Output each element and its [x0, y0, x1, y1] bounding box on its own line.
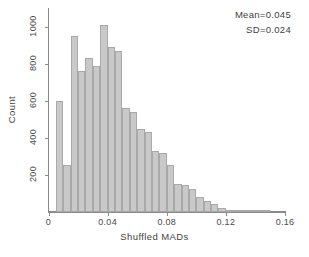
histogram-bar	[218, 208, 225, 212]
histogram-bar	[152, 151, 159, 212]
mean-annotation: Mean=0.045	[235, 7, 291, 22]
histogram-bar	[263, 210, 270, 212]
y-axis-tick-label: 200	[28, 163, 38, 185]
histogram-figure: 00.040.080.120.16 2004006008001000 Shuff…	[0, 0, 309, 257]
histogram-bar	[211, 204, 218, 212]
y-axis-tick-label: 1000	[28, 15, 38, 37]
x-axis-tick-label: 0	[46, 217, 51, 227]
x-axis-tick	[108, 212, 109, 216]
histogram-bar	[189, 189, 196, 212]
x-axis-tick-label: 0.12	[217, 217, 236, 227]
x-axis-tick	[167, 212, 168, 216]
histogram-bar	[241, 210, 248, 212]
histogram-bar	[196, 197, 203, 212]
y-axis-tick	[45, 175, 49, 176]
y-axis-tick	[45, 138, 49, 139]
y-axis-tick-label: 600	[28, 89, 38, 111]
stats-annotation-block: Mean=0.045 SD=0.024	[235, 7, 291, 37]
histogram-bar	[233, 210, 240, 212]
x-axis-tick-label: 0.16	[276, 217, 295, 227]
histogram-bar	[108, 47, 115, 212]
x-axis-tick-label: 0.04	[98, 217, 117, 227]
plot-area	[49, 8, 286, 212]
histogram-bar	[56, 101, 63, 212]
histogram-bar	[71, 36, 78, 212]
histogram-bar	[174, 184, 181, 212]
y-axis-tick	[45, 64, 49, 65]
histogram-bar	[93, 66, 100, 213]
histogram-bar	[100, 25, 107, 212]
histogram-bar	[182, 185, 189, 212]
x-axis-tick	[285, 212, 286, 216]
sd-annotation: SD=0.024	[235, 22, 291, 37]
histogram-bar	[115, 51, 122, 212]
histogram-bar	[78, 71, 85, 212]
histogram-bar	[145, 132, 152, 212]
y-axis-tick	[45, 101, 49, 102]
x-axis-tick-label: 0.08	[157, 217, 176, 227]
histogram-bar	[255, 210, 262, 212]
histogram-bar	[204, 201, 211, 212]
y-axis-tick-label: 400	[28, 126, 38, 148]
histogram-bar	[167, 165, 174, 212]
y-axis-tick-label: 800	[28, 52, 38, 74]
histogram-bar	[137, 129, 144, 212]
x-axis-tick	[226, 212, 227, 216]
histogram-bar	[122, 108, 129, 212]
histogram-bar	[159, 153, 166, 212]
histogram-bar	[85, 58, 92, 212]
histogram-bars	[49, 8, 286, 212]
x-axis-tick	[49, 212, 50, 216]
histogram-bar	[248, 210, 255, 212]
y-axis-label: Count	[6, 80, 17, 140]
histogram-bar	[130, 112, 137, 212]
histogram-bar	[63, 165, 70, 212]
y-axis-tick	[45, 27, 49, 28]
x-axis-label: Shuffled MADs	[0, 231, 309, 242]
